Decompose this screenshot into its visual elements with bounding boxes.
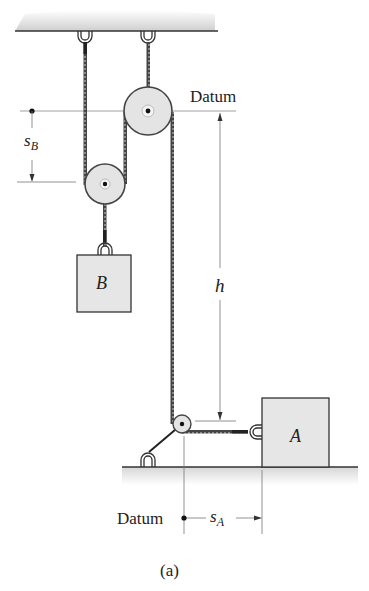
s-a-symbol: s: [210, 507, 217, 526]
rope-left: [84, 42, 88, 185]
pulley-system-diagram: [0, 0, 369, 591]
ceiling-hook-right: [141, 31, 155, 43]
ground: [122, 467, 358, 485]
rope-horizontal-to-a: [182, 430, 248, 434]
bottom-pulley: [173, 415, 191, 433]
s-b-subscript: B: [31, 139, 38, 153]
s-b-label: sB: [24, 132, 38, 149]
datum-label-bottom: Datum: [117, 510, 163, 527]
pulley-b: [85, 164, 125, 204]
s-a-label: sA: [210, 508, 224, 525]
h-dimension: [195, 113, 236, 421]
floor-anchor-hook: [141, 453, 155, 467]
h-label: h: [215, 276, 225, 295]
figure-caption: (a): [160, 562, 179, 579]
block-b-label: B: [96, 274, 107, 292]
rope-right-long: [171, 112, 175, 424]
ceiling: [15, 10, 218, 31]
s-b-symbol: s: [24, 131, 31, 150]
s-a-subscript: A: [217, 515, 224, 529]
ceiling-hook-left: [78, 31, 92, 43]
block-a-label: A: [290, 427, 301, 445]
top-pulley: [124, 87, 172, 135]
datum-label-top: Datum: [190, 88, 236, 105]
